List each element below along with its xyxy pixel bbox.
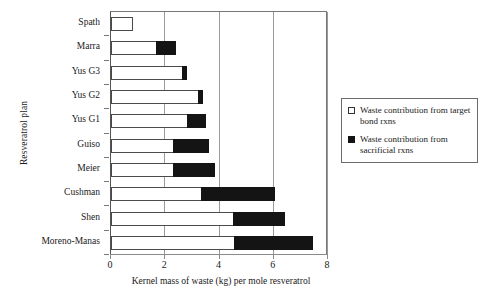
bar-segment-sacrificial: [173, 163, 215, 177]
bar-row: [111, 139, 209, 153]
legend-label: Waste contribution from sacrificial rxns: [360, 134, 471, 156]
bar-segment-sacrificial: [187, 114, 206, 128]
x-axis-tick-label: 8: [315, 259, 339, 270]
bar-row: [111, 66, 187, 80]
y-axis-tick-label: Guiso: [77, 139, 100, 150]
y-axis-tick-label: Yus G2: [72, 90, 100, 101]
bar-segment-target-bond: [111, 187, 201, 201]
bar-segment-target-bond: [111, 139, 173, 153]
x-axis-title: Kernel mass of waste (kg) per mole resve…: [76, 276, 366, 286]
bar-row: [111, 212, 285, 226]
bar-row: [111, 17, 133, 31]
bar-segment-target-bond: [111, 212, 233, 226]
plot-area: [110, 11, 327, 254]
legend-label: Waste contribution from target bond rxns: [360, 105, 471, 127]
bar-row: [111, 163, 215, 177]
bar-segment-target-bond: [111, 66, 182, 80]
y-axis-tick: [104, 60, 109, 61]
y-axis-tick: [104, 205, 109, 206]
legend: Waste contribution from target bond rxns…: [341, 98, 478, 163]
y-axis-tick-label: Moreno-Manas: [41, 236, 100, 247]
bar-segment-sacrificial: [173, 139, 208, 153]
y-axis-tick-label: Marra: [77, 41, 100, 52]
bar-segment-sacrificial: [233, 212, 285, 226]
y-axis-tick: [104, 157, 109, 158]
y-axis-tick: [104, 133, 109, 134]
gridline: [327, 12, 328, 254]
bar-segment-target-bond: [111, 114, 187, 128]
bar-row: [111, 41, 176, 55]
bar-segment-target-bond: [111, 163, 173, 177]
y-axis-tick-label: Yus G3: [72, 66, 100, 77]
bar-row: [111, 236, 313, 250]
open-square-swatch-icon: [348, 107, 355, 114]
bar-segment-target-bond: [111, 236, 234, 250]
bar-segment-target-bond: [111, 17, 133, 31]
filled-square-swatch-icon: [348, 136, 355, 143]
y-axis-tick: [104, 35, 109, 36]
x-axis-tick-label: 2: [152, 259, 176, 270]
y-axis-tick-label: Meier: [77, 163, 100, 174]
y-axis-tick-label: Cushman: [64, 187, 100, 198]
y-axis-tick: [104, 230, 109, 231]
y-axis-tick-label: Spath: [78, 17, 100, 28]
y-axis-tick: [104, 108, 109, 109]
bar-segment-sacrificial: [182, 66, 187, 80]
x-axis-tick-label: 0: [98, 259, 122, 270]
y-axis-tick-label: Yus G1: [72, 114, 100, 125]
bar-segment-sacrificial: [198, 90, 203, 104]
y-axis-tick: [104, 254, 109, 255]
bar-segment-sacrificial: [201, 187, 276, 201]
legend-item: Waste contribution from target bond rxns: [348, 105, 471, 127]
legend-item: Waste contribution from sacrificial rxns: [348, 134, 471, 156]
bar-row: [111, 114, 206, 128]
chart-figure: Resveratrol plan SpathMarraYus G3Yus G2Y…: [0, 0, 488, 299]
y-axis-tick: [104, 181, 109, 182]
bar-segment-sacrificial: [234, 236, 313, 250]
x-axis-tick-label: 4: [207, 259, 231, 270]
x-axis-tick-label: 6: [261, 259, 285, 270]
bar-segment-target-bond: [111, 41, 156, 55]
y-axis-category-labels: SpathMarraYus G3Yus G2Yus G1GuisoMeierCu…: [0, 11, 106, 254]
y-axis-tick: [104, 84, 109, 85]
y-axis-tick-label: Shen: [81, 212, 100, 223]
bar-segment-sacrificial: [156, 41, 176, 55]
bar-row: [111, 90, 203, 104]
bar-rows: [111, 12, 326, 254]
bar-segment-target-bond: [111, 90, 198, 104]
bar-row: [111, 187, 275, 201]
